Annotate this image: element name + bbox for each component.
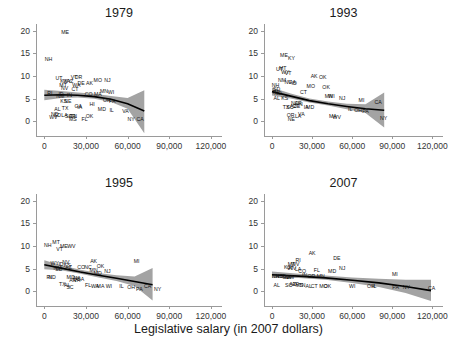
y-tick xyxy=(261,291,264,292)
data-point-label: OK xyxy=(97,264,105,269)
data-point-label: AK xyxy=(311,74,318,79)
x-tick-label: 0 xyxy=(42,311,47,321)
data-point-label: WY xyxy=(287,275,295,280)
data-point-label: PA xyxy=(362,109,369,114)
plot-area: MENHUTVTORKYWYAZMONJMTWADEAKNVCTMNWIRIID… xyxy=(36,24,222,136)
x-tick-label: 90,000 xyxy=(379,141,405,151)
data-point-label: IN xyxy=(67,93,72,98)
plot-area: AKDERIMTWVKSVTNVLACOFLNJMDMINHNDIDSDNMWY… xyxy=(264,194,443,306)
data-point-label: PA xyxy=(109,99,116,104)
y-tick xyxy=(33,246,36,247)
data-point-label: OK xyxy=(319,75,327,80)
data-point-label: NY xyxy=(403,286,410,291)
data-point-label: SD xyxy=(55,267,62,272)
data-point-label: MT xyxy=(52,241,60,246)
data-point-label: MD xyxy=(328,270,336,275)
y-tick-label: 10 xyxy=(10,71,30,81)
y-tick xyxy=(33,121,36,122)
data-point-label: AK xyxy=(309,251,316,256)
data-point-label: MD xyxy=(98,108,106,113)
y-tick xyxy=(33,269,36,270)
data-point-label: OK xyxy=(322,85,330,90)
x-tick xyxy=(352,136,353,139)
data-point-label: WV xyxy=(49,116,57,121)
data-point-label: PA xyxy=(136,287,143,292)
data-point-label: KY xyxy=(288,57,295,62)
x-tick xyxy=(211,306,212,309)
data-point-label: MA xyxy=(94,92,102,97)
x-tick xyxy=(211,136,212,139)
x-tick-label: 90,000 xyxy=(156,311,182,321)
panel-title: 1993 xyxy=(236,6,451,20)
x-tick xyxy=(392,136,393,139)
x-axis-line xyxy=(264,136,443,137)
y-axis-line xyxy=(36,194,37,306)
data-point-label: TN xyxy=(299,283,306,288)
data-point-label: NH xyxy=(45,57,53,62)
y-tick-label: 20 xyxy=(10,196,30,206)
data-point-label: AK xyxy=(86,81,93,86)
y-tick-label: 0 xyxy=(10,286,30,296)
data-point-label: NE xyxy=(64,100,71,105)
x-tick-label: 0 xyxy=(270,141,275,151)
x-tick xyxy=(432,136,433,139)
y-axis-line xyxy=(36,24,37,136)
data-point-label: NY xyxy=(380,117,387,122)
y-tick-label: 5 xyxy=(10,94,30,104)
y-tick-label: 15 xyxy=(238,218,258,228)
y-tick-label: 5 xyxy=(238,264,258,274)
y-tick-label: 15 xyxy=(10,48,30,58)
y-tick xyxy=(261,269,264,270)
data-point-label: DE xyxy=(293,104,300,109)
data-point-label: ID xyxy=(292,82,297,87)
data-point-label: PA xyxy=(392,286,399,291)
data-point-label: MN xyxy=(317,274,325,279)
x-tick xyxy=(128,306,129,309)
y-tick xyxy=(261,121,264,122)
data-point-label: DE xyxy=(333,256,340,261)
x-tick-label: 60,000 xyxy=(339,141,365,151)
data-point-label: OK xyxy=(324,284,332,289)
y-tick-label: 10 xyxy=(10,241,30,251)
y-tick-label: 5 xyxy=(10,264,30,274)
x-axis-title: Legislative salary (in 2007 dollars) xyxy=(0,322,457,336)
data-point-label: MI xyxy=(392,272,398,277)
x-tick xyxy=(312,306,313,309)
data-point-label: NY xyxy=(127,117,134,122)
panel-1995: 1995NHMTMEWVVTAKMIWYIDNVKSCONCOKAZNMSDMN… xyxy=(8,176,230,336)
x-tick-label: 120,000 xyxy=(417,311,448,321)
y-tick-label: 15 xyxy=(10,218,30,228)
data-point-label: RI xyxy=(47,92,52,97)
x-tick-label: 60,000 xyxy=(115,141,141,151)
y-tick-label: 5 xyxy=(238,94,258,104)
data-point-label: VA xyxy=(122,109,129,114)
data-point-label: MI xyxy=(134,259,140,264)
data-point-label: NE xyxy=(288,117,295,122)
y-tick xyxy=(33,31,36,32)
data-point-label: IL xyxy=(372,285,376,290)
x-tick xyxy=(128,136,129,139)
panel-2007: 2007AKDERIMTWVKSVTNVLACOFLNJMDMINHNDIDSD… xyxy=(236,176,451,336)
panel-title: 2007 xyxy=(236,176,451,190)
data-point-label: CT xyxy=(300,91,307,96)
y-axis-line xyxy=(264,24,265,136)
data-point-label: ME xyxy=(280,53,288,58)
x-tick-label: 0 xyxy=(270,311,275,321)
data-point-label: CT xyxy=(71,87,78,92)
x-tick xyxy=(86,136,87,139)
y-tick xyxy=(261,31,264,32)
y-tick-label: 0 xyxy=(238,286,258,296)
data-point-label: WI xyxy=(349,284,355,289)
data-point-label: RI xyxy=(47,276,52,281)
y-tick xyxy=(33,291,36,292)
x-tick-label: 30,000 xyxy=(299,141,325,151)
panel-1993: 1993MEKYUTMTWYVTAKOKNMNVGAIDMOOKNHSDRIND… xyxy=(236,6,451,166)
data-point-label: WI xyxy=(328,94,334,99)
y-tick-label: 0 xyxy=(238,116,258,126)
data-point-label: WI xyxy=(106,284,112,289)
data-point-label: ME xyxy=(61,30,69,35)
data-point-label: CA xyxy=(136,117,143,122)
x-tick xyxy=(432,306,433,309)
data-point-label: TX xyxy=(62,107,69,112)
plot-area: NHMTMEWVVTAKMIWYIDNVKSCONCOKAZNMSDMNNJMD… xyxy=(36,194,222,306)
